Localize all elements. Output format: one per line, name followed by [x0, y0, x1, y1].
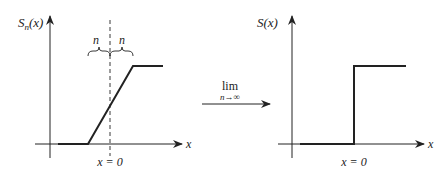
left-brace: [88, 47, 110, 56]
diagram-canvas: n n Sn(x) x x = 0 lim n→∞ S(x) x x = 0: [0, 0, 441, 174]
right-brace: [110, 47, 133, 56]
right-y-axis-label: S(x): [257, 15, 278, 30]
limit-operator: lim: [222, 79, 239, 93]
right-step-function-curve: [300, 66, 406, 144]
right-graph: S(x) x x = 0: [257, 15, 434, 169]
left-origin-label: x = 0: [96, 155, 122, 169]
left-x-axis-label: x: [185, 137, 192, 151]
limit-arrow: lim n→∞: [202, 79, 270, 104]
left-y-axis-label: Sn(x): [18, 15, 43, 32]
brace-right-label: n: [119, 33, 125, 47]
brace-left-label: n: [93, 33, 99, 47]
right-origin-label: x = 0: [340, 155, 366, 169]
left-graph: n n Sn(x) x x = 0: [18, 15, 192, 169]
limit-subscript: n→∞: [220, 92, 240, 102]
left-ramp-function-curve: [58, 66, 163, 144]
right-x-axis-label: x: [427, 137, 434, 151]
